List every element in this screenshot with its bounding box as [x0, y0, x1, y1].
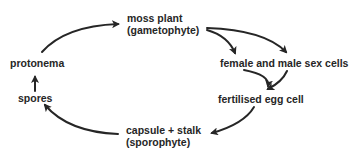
moss-plant-label: moss plant [127, 12, 199, 24]
node-fertilised-egg: fertilised egg cell [218, 93, 304, 105]
moss-life-cycle-diagram: moss plant (gametophyte) female and male… [0, 0, 359, 151]
arrow-protonema-to-moss [42, 24, 118, 52]
arrow-moss-to-sex-cells-1 [207, 30, 235, 53]
node-sex-cells: female and male sex cells [220, 57, 348, 69]
arrow-capsule-to-spores [45, 105, 118, 134]
node-capsule: capsule + stalk (sporophyte) [126, 124, 201, 148]
sporophyte-label: (sporophyte) [126, 136, 201, 148]
arrow-sex-cells-to-egg-2 [268, 71, 287, 89]
node-moss-plant: moss plant (gametophyte) [127, 12, 199, 36]
arrow-sex-cells-to-egg-1 [244, 70, 268, 86]
node-spores: spores [18, 92, 52, 104]
gametophyte-label: (gametophyte) [127, 24, 199, 36]
arrow-egg-to-capsule [212, 107, 254, 133]
node-protonema: protonema [10, 57, 64, 69]
arrow-moss-to-sex-cells-2 [207, 28, 286, 52]
capsule-label: capsule + stalk [126, 124, 201, 136]
